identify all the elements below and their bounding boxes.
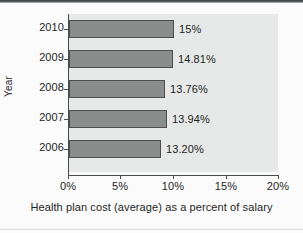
y-axis-tick-label-2010: 2010	[18, 21, 64, 33]
y-axis-tick-mark	[64, 119, 68, 120]
x-axis-tick-label-15: 15%	[206, 180, 246, 192]
bar-value-label-2008: 13.76%	[170, 83, 208, 95]
x-axis-tick-label-5: 5%	[100, 180, 140, 192]
bar-value-label-2010: 15%	[179, 23, 201, 35]
y-axis-tick-mark	[64, 59, 68, 60]
bar-2007	[69, 110, 167, 128]
x-axis-title: Health plan cost (average) as a percent …	[0, 201, 303, 213]
bar-value-label-2007: 13.94%	[172, 113, 210, 125]
bar-value-label-2006: 13.20%	[166, 143, 204, 155]
x-axis-tick-mark-10	[173, 175, 174, 179]
y-axis-tick-mark	[64, 89, 68, 90]
x-axis-tick-label-10: 10%	[153, 180, 193, 192]
x-axis-tick-label-20: 20%	[258, 180, 298, 192]
x-axis-tick-mark-5	[120, 175, 121, 179]
x-axis-tick-label-0: 0%	[48, 180, 88, 192]
y-axis-tick-label-2006: 2006	[18, 141, 64, 153]
y-axis-title: Year	[3, 67, 14, 107]
y-axis-tick-label-2009: 2009	[18, 51, 64, 63]
y-axis-tick-mark	[64, 149, 68, 150]
bar-2006	[69, 140, 161, 158]
y-axis-tick-label-2008: 2008	[18, 81, 64, 93]
bar-2008	[69, 80, 165, 98]
bar-value-label-2009: 14.81%	[178, 53, 216, 65]
x-axis-tick-mark-0	[68, 175, 69, 179]
page-bottom-rule	[0, 229, 303, 230]
x-axis-tick-mark-20	[278, 175, 279, 179]
y-axis-tick-label-2007: 2007	[18, 111, 64, 123]
chart-page: Year 2010 2009 2008 2007 2006 15% 14.81%…	[0, 0, 303, 233]
bar-chart: Year 2010 2009 2008 2007 2006 15% 14.81%…	[0, 3, 303, 229]
bar-2009	[69, 50, 173, 68]
x-axis-tick-mark-15	[226, 175, 227, 179]
bar-2010	[69, 20, 174, 38]
y-axis-tick-mark	[64, 29, 68, 30]
